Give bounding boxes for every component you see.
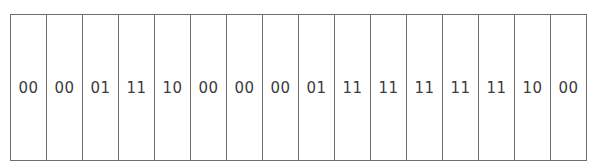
cell-13: 11 [443, 15, 479, 160]
cell-2: 00 [47, 15, 83, 160]
cell-6: 00 [191, 15, 227, 160]
cell-12: 11 [407, 15, 443, 160]
cell-3: 01 [83, 15, 119, 160]
cell-10: 11 [335, 15, 371, 160]
cell-7: 00 [227, 15, 263, 160]
cell-4: 11 [119, 15, 155, 160]
cell-5: 10 [155, 15, 191, 160]
cell-11: 11 [371, 15, 407, 160]
cell-16: 00 [551, 15, 586, 160]
cell-9: 01 [299, 15, 335, 160]
cell-8: 00 [263, 15, 299, 160]
bit-pair-strip: 00 00 01 11 10 00 00 00 01 11 11 11 11 1… [10, 14, 587, 161]
cell-1: 00 [11, 15, 47, 160]
cell-15: 10 [515, 15, 551, 160]
cell-14: 11 [479, 15, 515, 160]
